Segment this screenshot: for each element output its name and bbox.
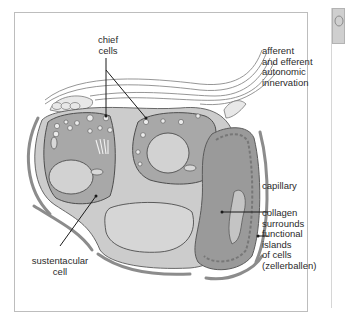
label-line: of cells (262, 250, 316, 261)
innervation-label: afferent and efferent autonomic innervat… (262, 46, 313, 88)
nerve-boutons (52, 103, 80, 110)
mitochondria-right (184, 165, 196, 171)
label-line: capillary (262, 181, 297, 192)
brain-thumbnail-icon (333, 9, 344, 43)
label-line: innervation (262, 78, 313, 89)
nucleus-right (147, 133, 189, 173)
capillary (195, 128, 260, 270)
label-line: autonomic (262, 67, 313, 78)
label-line: collagen (262, 208, 316, 219)
sustentacular-label: sustentacular cell (30, 256, 90, 277)
side-panel (331, 8, 345, 308)
nucleus-left (49, 160, 93, 194)
label-line: chief (88, 35, 128, 46)
label-line: cells (88, 46, 128, 57)
chief-cells-label: chief cells (88, 35, 128, 56)
collagen-label: collagen surrounds functional islands of… (262, 208, 316, 271)
label-line: (zellerballen) (262, 261, 316, 272)
side-thumbnail-tab[interactable] (332, 8, 345, 44)
label-line: sustentacular (30, 256, 90, 267)
label-line: cell (30, 267, 90, 278)
label-line: functional (262, 229, 316, 240)
sustentacular-nucleus (105, 202, 194, 252)
capillary-label: capillary (262, 181, 297, 192)
label-line: afferent (262, 46, 313, 57)
